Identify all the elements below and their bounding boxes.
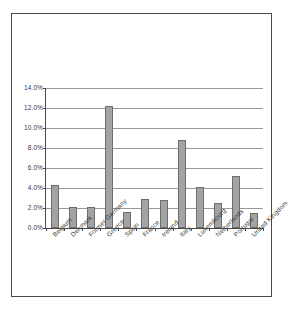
gridline — [46, 168, 263, 169]
y-axis-tick-label: 8.0% — [1, 144, 43, 151]
y-axis-tick-label: 4.0% — [1, 184, 43, 191]
plot-area — [46, 88, 263, 228]
gridline — [46, 108, 263, 109]
bar — [178, 140, 186, 228]
y-axis-tick-label: 2.0% — [1, 204, 43, 211]
gridline — [46, 208, 263, 209]
gridline — [46, 148, 263, 149]
y-axis-tick-label: 6.0% — [1, 164, 43, 171]
gridline — [46, 188, 263, 189]
y-axis-tick-label: 10.0% — [1, 124, 43, 131]
x-axis-tick-mark — [46, 228, 47, 231]
chart-frame: 0.0%2.0%4.0%6.0%8.0%10.0%12.0%14.0% Belg… — [11, 13, 272, 297]
gridline — [46, 128, 263, 129]
y-axis-tick-label: 12.0% — [1, 104, 43, 111]
bar — [51, 185, 59, 228]
gridline — [46, 88, 263, 89]
bar — [141, 199, 149, 228]
bar — [196, 187, 204, 228]
chart-figure: 0.0%2.0%4.0%6.0%8.0%10.0%12.0%14.0% Belg… — [0, 0, 284, 313]
y-axis-tick-label: 14.0% — [1, 84, 43, 91]
y-axis-tick-label: 0.0% — [1, 224, 43, 231]
